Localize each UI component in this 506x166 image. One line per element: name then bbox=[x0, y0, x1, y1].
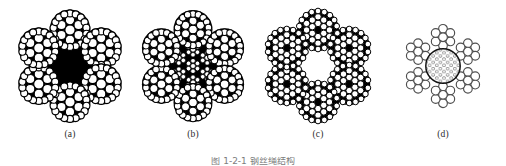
figure-root: (a) bbox=[0, 0, 506, 166]
wire-rope-cross-section-c bbox=[256, 4, 380, 128]
panel-label-a: (a) bbox=[8, 128, 132, 140]
diagram-c-svg bbox=[256, 4, 380, 128]
diagram-d-svg bbox=[381, 4, 505, 128]
figure-caption-clip: 图 1-2-1 钢丝绳结构 bbox=[0, 157, 506, 166]
panel-label-b: (b) bbox=[131, 128, 255, 140]
diagram-d-fiber-core bbox=[426, 49, 460, 83]
panel-label-c: (c) bbox=[256, 128, 380, 140]
wire-rope-cross-section-d bbox=[381, 4, 505, 128]
diagram-b-svg bbox=[131, 4, 255, 128]
wire-rope-cross-section-a bbox=[8, 4, 132, 128]
wire-rope-cross-section-b bbox=[131, 4, 255, 128]
panel-label-d: (d) bbox=[381, 128, 505, 140]
diagram-a-svg bbox=[8, 4, 132, 128]
figure-caption: 图 1-2-1 钢丝绳结构 bbox=[0, 157, 506, 166]
